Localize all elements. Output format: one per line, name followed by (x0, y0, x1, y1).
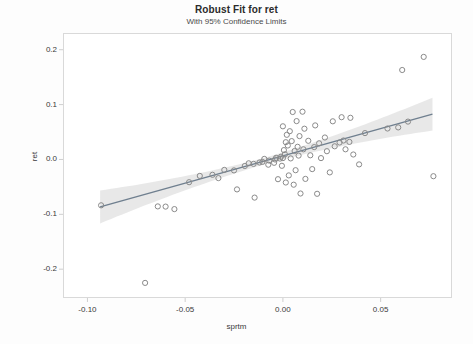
x-tick-label: 0.00 (261, 305, 305, 314)
y-axis-title: ret (30, 137, 39, 177)
x-tick-label: -0.05 (163, 305, 207, 314)
x-tick-label: 0.05 (359, 305, 403, 314)
y-tick-label: 0.1 (23, 100, 57, 109)
y-tick-label: -0.2 (23, 264, 57, 273)
scatter-points (99, 54, 437, 285)
x-axis-title: sprtm (0, 322, 473, 331)
y-tick-label: 0.0 (23, 154, 57, 163)
y-tick-label: -0.1 (23, 209, 57, 218)
plot-canvas (0, 0, 473, 344)
chart-root: Robust Fit for ret With 95% Confidence L… (0, 0, 473, 344)
y-tick-label: 0.2 (23, 45, 57, 54)
x-tick-label: -0.10 (65, 305, 109, 314)
